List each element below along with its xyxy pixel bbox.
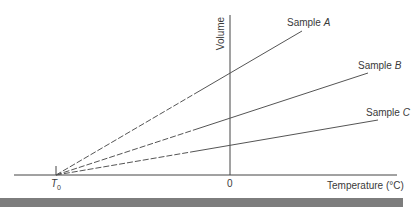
sample-letter: A xyxy=(324,17,331,28)
series-sample-a xyxy=(56,31,302,175)
y-axis-label: Volume xyxy=(215,14,226,54)
label-sample-b: Sample B xyxy=(358,60,401,71)
tick-label-t0: T0 xyxy=(51,178,61,191)
sample-letter: B xyxy=(395,60,402,71)
series-sample-b xyxy=(56,73,368,175)
label-sample-a: Sample A xyxy=(287,17,330,28)
chart-canvas xyxy=(0,0,416,207)
series-sample-c xyxy=(56,120,378,175)
label-sample-c: Sample C xyxy=(366,107,410,118)
x-axis-label: Temperature (°C) xyxy=(327,180,404,191)
tick-label-zero: 0 xyxy=(227,178,233,189)
sample-prefix: Sample xyxy=(358,60,395,71)
sample-prefix: Sample xyxy=(287,17,324,28)
sample-letter: C xyxy=(403,107,410,118)
sample-prefix: Sample xyxy=(366,107,403,118)
bottom-gray-bar xyxy=(0,198,403,207)
t0-subscript: 0 xyxy=(57,184,61,191)
